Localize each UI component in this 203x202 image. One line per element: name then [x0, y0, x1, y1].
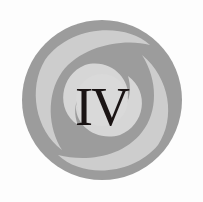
roman-numeral-label: IV — [0, 80, 203, 134]
emblem: IV — [0, 0, 203, 202]
